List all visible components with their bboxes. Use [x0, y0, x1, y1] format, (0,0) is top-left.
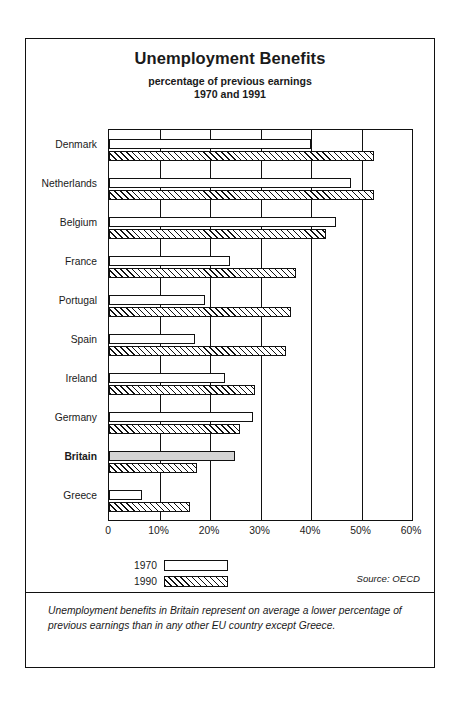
x-tick-label-0: 0 — [105, 525, 111, 536]
category-label-ireland: Ireland — [66, 373, 97, 384]
legend-swatch-1970 — [164, 560, 228, 571]
bar-1970-netherlands — [109, 178, 351, 188]
legend-swatch-1990 — [164, 576, 228, 587]
bar-1970-belgium — [109, 217, 336, 227]
category-label-belgium: Belgium — [60, 217, 97, 228]
bar-1990-spain — [109, 346, 286, 356]
x-tick-label-40: 40% — [300, 525, 321, 536]
bar-1990-belgium — [109, 229, 326, 239]
chart-subtitle-line-1: percentage of previous earnings — [26, 75, 434, 88]
x-tick-label-60: 60% — [401, 525, 422, 536]
chart-caption: Unemployment benefits in Britain represe… — [48, 604, 416, 634]
bar-1970-britain — [109, 451, 235, 461]
x-tick-label-50: 50% — [350, 525, 371, 536]
chart-row: Portugal — [109, 286, 412, 325]
title-block: Unemployment Benefits percentage of prev… — [26, 49, 434, 101]
chart-row: Spain — [109, 325, 412, 364]
plot-area: DenmarkNetherlandsBelgiumFrancePortugalS… — [108, 129, 413, 521]
bar-1990-france — [109, 268, 296, 278]
chart-row: Belgium — [109, 208, 412, 247]
x-tick-label-20: 20% — [199, 525, 220, 536]
x-axis-tick-labels: 010%20%30%40%50%60% — [108, 525, 411, 541]
chart-row: Britain — [109, 442, 412, 481]
category-label-portugal: Portugal — [59, 295, 97, 306]
bar-1990-denmark — [109, 151, 374, 161]
legend-item-1990: 1990 — [121, 574, 228, 588]
bar-1990-greece — [109, 502, 190, 512]
bar-1990-germany — [109, 424, 240, 434]
bar-1970-ireland — [109, 373, 225, 383]
chart-figure-card: Unemployment Benefits percentage of prev… — [25, 38, 435, 668]
category-label-britain: Britain — [64, 451, 97, 462]
category-label-greece: Greece — [63, 490, 97, 501]
bar-1970-greece — [109, 490, 142, 500]
legend-label-1970: 1970 — [121, 560, 157, 571]
bar-1970-france — [109, 256, 230, 266]
caption-divider — [26, 592, 434, 593]
chart-row: Netherlands — [109, 169, 412, 208]
chart-row: France — [109, 247, 412, 286]
bar-1990-britain — [109, 463, 197, 473]
legend-label-1990: 1990 — [121, 576, 157, 587]
category-label-france: France — [65, 256, 97, 267]
bar-1970-spain — [109, 334, 195, 344]
legend-item-1970: 1970 — [121, 558, 228, 572]
bar-1970-portugal — [109, 295, 205, 305]
bar-1990-netherlands — [109, 190, 374, 200]
gridline-60 — [412, 130, 413, 520]
x-tick-label-30: 30% — [249, 525, 270, 536]
category-label-denmark: Denmark — [55, 139, 97, 150]
bar-1970-denmark — [109, 139, 311, 149]
source-note: Source: OECD — [357, 573, 420, 584]
bar-1990-portugal — [109, 307, 291, 317]
chart-subtitle-line-2: 1970 and 1991 — [26, 88, 434, 101]
chart-row: Denmark — [109, 130, 412, 169]
category-label-germany: Germany — [55, 412, 97, 423]
chart-row: Ireland — [109, 364, 412, 403]
chart-title: Unemployment Benefits — [26, 49, 434, 69]
x-tick-label-10: 10% — [148, 525, 169, 536]
bar-1970-germany — [109, 412, 253, 422]
category-label-spain: Spain — [71, 334, 97, 345]
category-label-netherlands: Netherlands — [41, 178, 97, 189]
chart-row: Germany — [109, 403, 412, 442]
chart-legend: 19701990 — [121, 558, 228, 590]
chart-row: Greece — [109, 481, 412, 520]
bar-1990-ireland — [109, 385, 255, 395]
